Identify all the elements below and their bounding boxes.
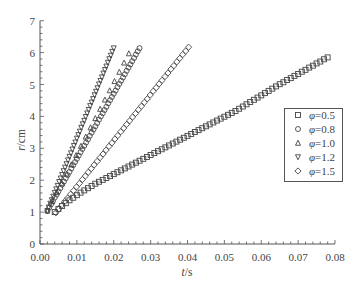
triangle-up-marker (107, 88, 112, 93)
series-triangle-down (45, 46, 116, 214)
diamond-marker (85, 169, 91, 175)
diamond-marker (103, 147, 109, 153)
diamond-marker (82, 173, 88, 179)
square-marker (203, 124, 208, 129)
triangle-up-marker (112, 79, 117, 84)
triangle-up-marker (93, 116, 98, 121)
x-tick-label: 0.07 (289, 251, 309, 263)
diamond-marker (79, 176, 85, 182)
square-marker (200, 126, 205, 131)
diamond-marker (159, 77, 165, 83)
square-marker (226, 112, 231, 117)
diamond-marker (150, 88, 156, 94)
square-marker (325, 55, 330, 60)
series-diamond (53, 44, 192, 216)
y-tick-label: 7 (30, 15, 36, 27)
square-marker (218, 116, 223, 121)
diamond-marker (168, 66, 174, 72)
square-marker (148, 152, 153, 157)
x-tick-label: 0.01 (67, 251, 86, 263)
square-marker (152, 151, 157, 156)
x-tick-label: 0.02 (104, 251, 123, 263)
square-marker (215, 118, 220, 123)
diamond-marker (183, 48, 189, 54)
square-marker (115, 170, 120, 175)
x-tick-label: 0.03 (141, 251, 161, 263)
square-marker (119, 168, 124, 173)
triangle-up-marker (126, 51, 131, 56)
diamond-marker (118, 129, 124, 135)
diamond-marker (129, 114, 135, 120)
diamond-marker (132, 110, 138, 116)
diamond-marker (112, 136, 118, 142)
square-marker (211, 120, 216, 125)
y-tick-label: 3 (30, 142, 36, 154)
y-tick-label: 4 (30, 110, 36, 122)
diamond-marker (106, 143, 112, 149)
square-marker (111, 172, 116, 177)
diamond-marker (91, 162, 97, 168)
square-marker (159, 147, 164, 152)
legend-label-3: φ=1.2 (309, 151, 335, 163)
x-tick-label: 0.00 (30, 251, 50, 263)
square-marker (229, 110, 234, 115)
x-tick-label: 0.08 (325, 251, 345, 263)
diamond-marker (135, 107, 141, 113)
diamond-marker (165, 70, 171, 76)
square-marker (130, 162, 135, 167)
square-marker (207, 122, 212, 127)
square-marker (137, 158, 142, 163)
diamond-marker (171, 63, 177, 69)
legend-label-1: φ=0.8 (309, 123, 336, 135)
diamond-marker (121, 125, 127, 131)
y-tick-label: 1 (30, 206, 36, 218)
scatter-plot: 0.000.010.020.030.040.050.060.070.080123… (0, 0, 362, 295)
diamond-marker (144, 96, 150, 102)
chart: 0.000.010.020.030.040.050.060.070.080123… (0, 0, 362, 295)
diamond-marker (180, 51, 186, 57)
legend-label-2: φ=1.0 (309, 137, 336, 149)
square-marker (104, 175, 109, 180)
square-marker (100, 177, 105, 182)
diamond-marker (141, 99, 147, 105)
square-marker (108, 174, 113, 179)
triangle-down-marker (111, 46, 116, 51)
triangle-up-marker (98, 106, 103, 111)
triangle-up-marker (117, 69, 122, 74)
square-marker (156, 149, 161, 154)
square-marker (181, 135, 186, 140)
y-tick-label: 5 (30, 79, 36, 91)
x-axis-unit: /s (185, 266, 193, 278)
square-marker (163, 145, 168, 150)
diamond-marker (124, 121, 130, 127)
square-marker (192, 130, 197, 135)
triangle-up-marker (88, 125, 93, 130)
x-axis-label: t/s (182, 266, 193, 278)
y-tick-label: 0 (30, 238, 36, 250)
diamond-marker (186, 44, 192, 50)
diamond-marker (177, 55, 183, 61)
square-marker (185, 133, 190, 138)
y-axis-label: r/cm (15, 129, 27, 151)
diamond-marker (127, 118, 133, 124)
legend-label-0: φ=0.5 (309, 109, 336, 121)
square-marker (222, 114, 227, 119)
square-marker (126, 164, 131, 169)
square-marker (167, 143, 172, 148)
y-tick-label: 2 (30, 174, 36, 186)
x-tick-label: 0.05 (215, 251, 235, 263)
square-marker (189, 131, 194, 136)
y-tick-label: 6 (30, 47, 36, 59)
diamond-marker (147, 92, 153, 98)
square-marker (144, 154, 149, 159)
diamond-marker (115, 132, 121, 138)
diamond-marker (100, 151, 106, 157)
diamond-marker (88, 166, 94, 172)
square-marker (122, 166, 127, 171)
x-tick-label: 0.04 (178, 251, 198, 263)
triangle-up-marker (102, 97, 107, 102)
legend: φ=0.5 φ=0.8 φ=1.0 φ=1.2 φ=1.5 (285, 109, 343, 182)
square-marker (196, 128, 201, 133)
diamond-marker (109, 140, 115, 146)
square-marker (178, 137, 183, 142)
